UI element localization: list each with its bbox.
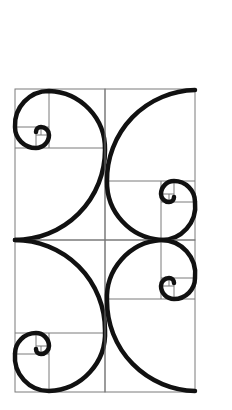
quadrant-bottom-left [15, 240, 105, 392]
golden-spiral-diagram [0, 0, 232, 410]
quadrant-top-right [105, 89, 195, 240]
quadrant-top-left [15, 89, 105, 240]
quadrant-bottom-right [105, 240, 195, 392]
